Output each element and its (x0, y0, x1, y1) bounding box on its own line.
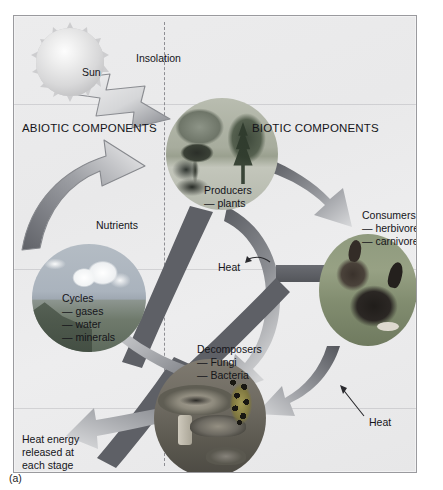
diagram-panel: Sun (13, 15, 417, 473)
producers-item-plants: — plants (204, 197, 245, 209)
frog-spots-icon (228, 375, 254, 429)
mushroom-gill-icon (176, 395, 216, 406)
figure-caption: (a) (9, 472, 22, 484)
consumers-label-group: Consumers— herbivores— carnivores (362, 209, 417, 248)
cycles-label-group: Cycles— gases— water— minerals (62, 292, 115, 344)
decomposers-item-fungi: — Fungi (197, 356, 237, 368)
consumers-photo (319, 234, 417, 346)
insolation-label: Insolation (136, 52, 181, 65)
decomposers-item-bacteria: — Bacteria (197, 369, 249, 381)
cycles-item-water: — water (62, 318, 101, 330)
heat-energy-released-note: Heat energy released at each stage (22, 433, 79, 472)
consumers-item-carnivores: — carnivores (362, 235, 417, 247)
arrow-nutrients (22, 140, 145, 250)
biotic-components-heading: BIOTIC COMPONENTS (252, 121, 379, 135)
cycles-item-gases: — gases (62, 305, 103, 317)
cycles-title: Cycles (62, 292, 94, 304)
nutrients-label: Nutrients (96, 219, 138, 232)
heat-label-right: Heat (369, 416, 391, 429)
small-cloud-icon (40, 256, 70, 272)
producers-title: Producers (204, 184, 252, 196)
producers-label-group: Producers— plants (204, 184, 252, 210)
arrow-consumers-to-decomposers (256, 346, 340, 416)
consumers-item-herbivores: — herbivores (362, 222, 417, 234)
sun-label: Sun (82, 66, 101, 79)
large-cloud-icon (68, 260, 130, 294)
arrow-producers-to-consumers (267, 158, 352, 227)
abiotic-components-heading: ABIOTIC COMPONENTS (22, 121, 157, 135)
rabbit-foot-icon (377, 322, 399, 331)
figure-root: Sun (0, 0, 443, 490)
sun-disc (36, 28, 104, 96)
heat-right-leader-line (342, 388, 364, 416)
decomposers-label-group: Decomposers— Fungi— Bacteria (197, 343, 262, 382)
decomposers-title: Decomposers (197, 343, 262, 355)
heat-label-center: Heat (218, 261, 240, 274)
cycles-item-minerals: — minerals (62, 331, 115, 343)
consumers-title: Consumers (362, 209, 416, 221)
heat-center-leader-arrowhead (245, 256, 252, 263)
mushroom-small-icon (206, 447, 246, 465)
sun-node: Sun (36, 28, 104, 96)
